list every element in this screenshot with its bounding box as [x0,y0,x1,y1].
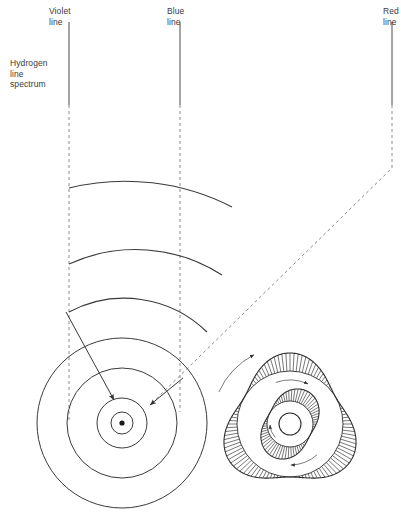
bohr-atom [37,312,207,508]
red-transition-arrow [150,378,183,405]
wavefront-arcs-group [69,181,232,332]
red-line-label: Red line [383,6,399,27]
hydrogen-spectrum-bohr-atom-diagram [0,0,401,513]
standing-wave-core [279,413,301,435]
spectrum-label: Hydrogen line spectrum [10,58,48,90]
rotation-arrow-1 [219,355,254,392]
violet-transition-arrow [66,312,114,400]
standing-wave-inner [261,389,319,459]
standing-wave-inner-hatching [261,389,319,459]
blue-line-label: Blue line [167,6,184,27]
standing-wave-outer [224,353,356,478]
nucleus [119,420,124,425]
spectral-lines-group [69,22,392,420]
rotation-arrow-2 [276,380,308,384]
wavefront-arc-2 [69,250,222,275]
standing-wave-outer-envelope [237,371,343,477]
rotation-arrow-3 [291,455,317,465]
standing-wave-outer-hatching [224,353,356,478]
standing-wave-inner-envelope [267,401,313,447]
de-broglie-standing-wave [219,353,356,478]
wavefront-arc-3 [69,298,207,332]
violet-line-label: Violet line [49,6,71,27]
wavefront-arc-1 [69,181,232,207]
red-line [150,22,392,405]
rotation-arrow-4 [270,425,275,438]
